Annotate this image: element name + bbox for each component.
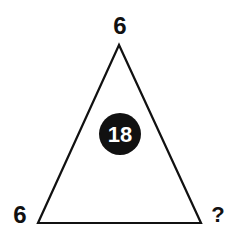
bottom-right-unknown: ? (211, 202, 224, 227)
top-vertex-number: 6 (113, 12, 126, 39)
bottom-left-vertex-number: 6 (13, 201, 26, 228)
center-number: 18 (108, 122, 132, 147)
triangle-number-puzzle: 6 6 ? 18 (0, 0, 236, 238)
puzzle-diagram: 6 6 ? 18 (0, 0, 236, 238)
